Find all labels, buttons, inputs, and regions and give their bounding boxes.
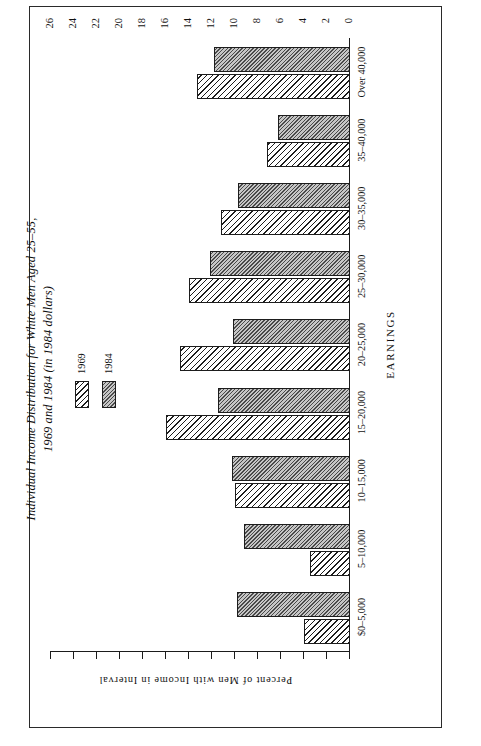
axis-tick — [303, 652, 304, 659]
bar-1969 — [304, 619, 350, 644]
axis-tick — [119, 652, 120, 659]
value-axis-title: Percent of Men with Income in Interval — [46, 675, 346, 686]
bar-1984 — [232, 456, 350, 481]
axis-tick — [326, 652, 327, 659]
bar-1969 — [221, 210, 350, 235]
category-axis-title: EARNINGS — [384, 38, 396, 651]
bar-1969 — [166, 415, 350, 440]
bar-1984 — [244, 524, 350, 549]
axis-tick — [234, 652, 235, 659]
legend-swatch-1969 — [75, 381, 89, 408]
figure-page: Individual Income Distribution for White… — [0, 0, 481, 746]
bar-groups — [50, 38, 350, 651]
axis-tick — [188, 652, 189, 659]
legend-label: 1984 — [102, 353, 116, 374]
axis-tick — [211, 652, 212, 659]
axis-tick — [142, 652, 143, 659]
bar-1984 — [218, 388, 350, 413]
axis-tick — [165, 652, 166, 659]
bar-1984 — [233, 320, 350, 345]
axis-tick — [73, 652, 74, 659]
legend-label: 1969 — [75, 353, 89, 374]
category-label: Over 40,000 — [356, 19, 367, 125]
bar-1969 — [189, 278, 350, 303]
bar-1969 — [267, 142, 350, 167]
bar-1969 — [235, 483, 350, 508]
legend-swatch-1984 — [102, 381, 116, 408]
bar-1969 — [180, 347, 350, 372]
axis-tick — [280, 652, 281, 659]
plot-area: 02468101214161820222426 $0–5,0005–10,000… — [50, 18, 402, 708]
bar-1984 — [210, 251, 350, 276]
bar-1984 — [238, 183, 350, 208]
bar-1984 — [237, 592, 350, 617]
axis-tick — [349, 652, 350, 659]
axis-tick — [257, 652, 258, 659]
axis-tick — [96, 652, 97, 659]
bar-1969 — [197, 74, 350, 99]
bar-1984 — [214, 47, 350, 72]
bar-1969 — [310, 551, 350, 576]
bar-1984 — [278, 115, 350, 140]
axis-tick — [50, 652, 51, 659]
